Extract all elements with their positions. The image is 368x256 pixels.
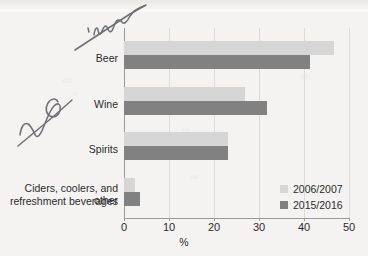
bar-wine-2015-2016: [124, 101, 267, 115]
x-tick-label-0: 0: [109, 221, 139, 233]
bar-spirits-2015-2016: [124, 146, 228, 160]
category-label-wine: Wine: [94, 98, 118, 110]
category-label-spirits: Spirits: [89, 143, 118, 155]
legend-item-2006-2007: 2006/2007: [280, 182, 343, 196]
x-tick-label-40: 40: [289, 221, 319, 233]
gridline-50: [349, 28, 350, 218]
bar-beer-2006-2007: [124, 41, 334, 55]
bar-beer-2015-2016: [124, 55, 310, 69]
bar-spirits-2006-2007: [124, 132, 228, 146]
legend-swatch-icon-2006-2007: [280, 185, 288, 193]
category-label-beer: Beer: [96, 52, 118, 64]
category-label-ciders-line2: refreshment beverages: [0, 195, 118, 207]
legend-swatch-icon-2015-2016: [280, 201, 288, 209]
legend-label-2006-2007: 2006/2007: [293, 183, 343, 195]
category-axis-labels: Beer Wine Spirits Ciders, coolers, and o…: [0, 0, 118, 256]
x-axis-title: %: [0, 236, 368, 248]
legend-label-2015-2016: 2015/2016: [293, 199, 343, 211]
bar-wine-2006-2007: [124, 87, 245, 101]
x-tick-label-10: 10: [154, 221, 184, 233]
x-tick-label-50: 50: [334, 221, 364, 233]
bar-ciders-2006-2007: [124, 178, 135, 192]
x-tick-label-30: 30: [244, 221, 274, 233]
x-axis-line: [124, 218, 350, 219]
x-tick-label-20: 20: [199, 221, 229, 233]
chart-legend: 2006/2007 2015/2016: [280, 182, 343, 214]
bar-ciders-2015-2016: [124, 192, 140, 206]
legend-item-2015-2016: 2015/2016: [280, 198, 343, 212]
bar-chart-figure: Beer Wine Spirits Ciders, coolers, and o…: [0, 0, 368, 256]
